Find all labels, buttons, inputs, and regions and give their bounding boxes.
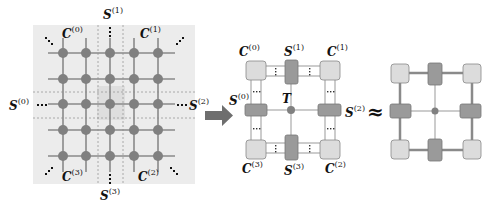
left-label-s1: S(1) <box>103 6 123 22</box>
mid-label-s1: S(1) <box>284 43 304 59</box>
mid-label-s2: S(2) <box>345 104 365 120</box>
left-lattice <box>33 25 195 184</box>
left-label-c0: C(0) <box>62 25 83 41</box>
transform-arrow-icon <box>205 105 233 126</box>
mid-label-s3: S(3) <box>284 162 304 178</box>
right-ctm-network <box>390 63 481 161</box>
left-label-c1: C(1) <box>140 25 161 41</box>
mid-label-c2: C(2) <box>325 160 346 176</box>
mid-label-c3: C(3) <box>242 160 263 176</box>
left-label-s3: S(3) <box>100 187 120 203</box>
approx-symbol: ≈ <box>367 100 384 124</box>
mid-label-c0: C(0) <box>239 43 260 59</box>
left-label-c3: C(3) <box>62 168 83 184</box>
mid-label-center: T <box>282 92 291 106</box>
middle-ctm-network <box>245 60 341 160</box>
left-label-s0: S(0) <box>9 97 29 113</box>
mid-label-s0: S(0) <box>229 92 249 108</box>
mid-label-c1: C(1) <box>327 43 348 59</box>
left-label-c2: C(2) <box>138 168 159 184</box>
left-label-s2: S(2) <box>189 97 209 113</box>
